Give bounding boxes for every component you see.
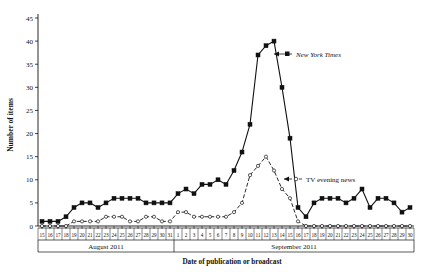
data-point-marker bbox=[144, 215, 147, 218]
x-tick-label: 17 bbox=[55, 232, 61, 238]
data-point-marker bbox=[376, 224, 379, 227]
x-tick-label: 7 bbox=[225, 232, 228, 238]
data-point-marker bbox=[104, 201, 108, 205]
data-point-marker bbox=[200, 215, 203, 218]
x-tick-label: 18 bbox=[63, 232, 69, 238]
data-point-marker bbox=[96, 220, 99, 223]
x-tick-label: 16 bbox=[295, 232, 301, 238]
y-axis-label: Number of items bbox=[6, 98, 15, 152]
data-point-marker bbox=[304, 224, 307, 227]
data-point-marker bbox=[296, 220, 299, 223]
x-tick-label: 4 bbox=[201, 232, 204, 238]
x-tick-label: 28 bbox=[391, 232, 397, 238]
data-point-marker bbox=[408, 206, 412, 210]
data-point-marker bbox=[160, 201, 164, 205]
x-tick-label: 31 bbox=[167, 232, 173, 238]
data-point-marker bbox=[288, 197, 291, 200]
data-point-marker bbox=[144, 201, 148, 205]
data-point-marker bbox=[192, 215, 195, 218]
data-point-marker bbox=[392, 224, 395, 227]
x-tick-label: 29 bbox=[399, 232, 405, 238]
y-tick-label: 5 bbox=[30, 199, 34, 207]
data-point-marker bbox=[352, 196, 356, 200]
data-point-marker bbox=[112, 215, 115, 218]
data-point-marker bbox=[352, 224, 355, 227]
data-point-marker bbox=[128, 196, 132, 200]
data-point-marker bbox=[184, 211, 187, 214]
data-point-marker bbox=[112, 196, 116, 200]
data-point-marker bbox=[40, 219, 44, 223]
y-tick-label: 10 bbox=[26, 176, 34, 184]
x-tick-label: 27 bbox=[135, 232, 141, 238]
data-point-marker bbox=[176, 211, 179, 214]
x-tick-label: 20 bbox=[327, 232, 333, 238]
x-tick-label: 20 bbox=[79, 232, 85, 238]
x-tick-label: 18 bbox=[311, 232, 317, 238]
x-tick-label: 3 bbox=[193, 232, 196, 238]
data-point-marker bbox=[296, 206, 300, 210]
x-tick-label: 13 bbox=[271, 232, 277, 238]
x-tick-label: 29 bbox=[151, 232, 157, 238]
x-tick-label: 11 bbox=[256, 232, 261, 238]
y-tick-label: 0 bbox=[30, 223, 34, 231]
data-point-marker bbox=[312, 201, 316, 205]
data-point-marker bbox=[64, 215, 68, 219]
data-point-marker bbox=[224, 182, 228, 186]
data-point-marker bbox=[88, 220, 91, 223]
x-axis-label: Date of publication or broadcast bbox=[182, 258, 282, 266]
x-tick-label: 22 bbox=[95, 232, 101, 238]
x-axis-month-label: August 2011 bbox=[88, 243, 124, 251]
x-tick-label: 16 bbox=[47, 232, 53, 238]
data-point-marker bbox=[56, 219, 60, 223]
data-point-marker bbox=[136, 220, 139, 223]
data-point-marker bbox=[248, 174, 251, 177]
x-tick-label: 9 bbox=[241, 232, 244, 238]
data-point-marker bbox=[216, 215, 219, 218]
data-point-marker bbox=[200, 182, 204, 186]
x-tick-label: 30 bbox=[159, 232, 165, 238]
y-tick-label: 40 bbox=[26, 38, 34, 46]
data-point-marker bbox=[136, 196, 140, 200]
data-point-marker bbox=[160, 220, 163, 223]
data-point-marker bbox=[400, 210, 404, 214]
data-point-marker bbox=[152, 201, 156, 205]
series-line-nyt bbox=[42, 41, 410, 221]
x-tick-label: 8 bbox=[233, 232, 236, 238]
data-point-marker bbox=[328, 196, 332, 200]
data-point-marker bbox=[336, 224, 339, 227]
y-tick-label: 35 bbox=[26, 61, 34, 69]
data-point-marker bbox=[368, 224, 371, 227]
x-tick-label: 24 bbox=[111, 232, 117, 238]
data-point-marker bbox=[80, 220, 83, 223]
data-point-marker bbox=[272, 169, 275, 172]
data-point-marker bbox=[184, 187, 188, 191]
data-point-marker bbox=[344, 224, 347, 227]
x-axis-month-label: September 2011 bbox=[271, 243, 317, 251]
data-point-marker bbox=[104, 215, 107, 218]
x-tick-label: 19 bbox=[319, 232, 325, 238]
data-point-marker bbox=[328, 224, 331, 227]
data-point-marker bbox=[392, 201, 396, 205]
data-point-marker bbox=[344, 201, 348, 205]
data-point-marker bbox=[240, 150, 244, 154]
x-tick-label: 14 bbox=[279, 232, 285, 238]
x-axis: 1516171819202122232425262728293031123456… bbox=[38, 226, 414, 252]
data-point-marker bbox=[384, 224, 387, 227]
y-axis: 051015202530354045 bbox=[26, 14, 38, 231]
y-tick-label: 45 bbox=[26, 15, 34, 23]
y-tick-label: 15 bbox=[26, 153, 34, 161]
x-tick-label: 25 bbox=[367, 232, 373, 238]
data-point-marker bbox=[152, 215, 155, 218]
data-point-marker bbox=[96, 206, 100, 210]
data-point-marker bbox=[128, 220, 131, 223]
data-point-marker bbox=[360, 224, 363, 227]
data-point-marker bbox=[248, 122, 252, 126]
data-point-marker bbox=[336, 196, 340, 200]
x-tick-label: 25 bbox=[119, 232, 125, 238]
data-point-marker bbox=[168, 220, 171, 223]
x-tick-label: 15 bbox=[287, 232, 293, 238]
data-point-marker bbox=[368, 206, 372, 210]
x-tick-label: 23 bbox=[351, 232, 357, 238]
y-tick-label: 25 bbox=[26, 107, 34, 115]
data-point-marker bbox=[88, 201, 92, 205]
